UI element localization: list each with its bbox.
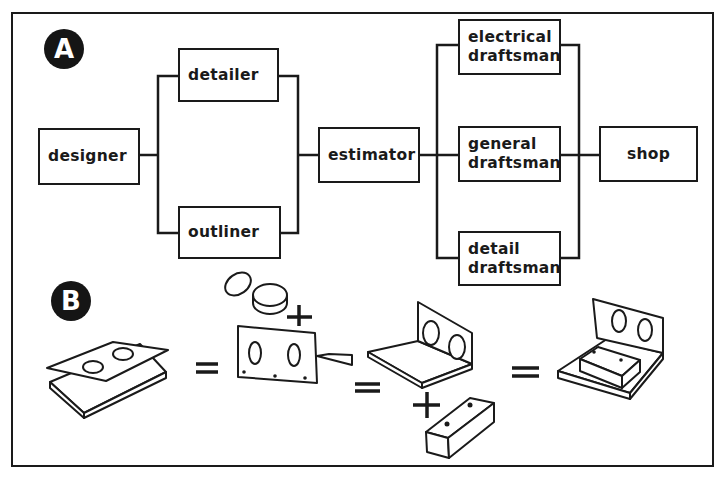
angle-bracket-with-bushings-illustration [368, 302, 472, 388]
equals-sign-3 [512, 368, 539, 376]
equals-sign-1 [196, 364, 218, 372]
rectangular-block-illustration [426, 398, 494, 458]
final-assembly-illustration [558, 299, 663, 399]
bushings-illustration [221, 268, 287, 314]
equals-sign-2 [355, 384, 380, 391]
assembly-sequence-illustration [0, 0, 721, 479]
plus-sign-1 [287, 305, 312, 326]
angle-plate-illustration [238, 326, 352, 383]
plus-sign-2 [413, 392, 440, 418]
